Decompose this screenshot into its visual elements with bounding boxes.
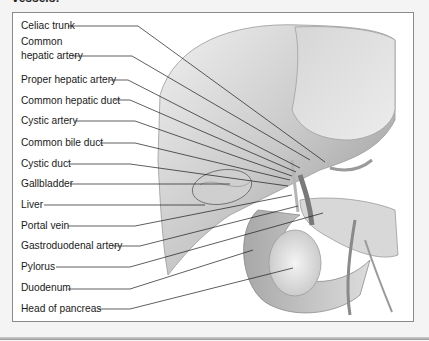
- label-common-hepatic-duct: Common hepatic duct: [21, 95, 120, 107]
- label-common-bile-duct: Common bile duct: [21, 137, 103, 149]
- bottom-rule: [0, 337, 429, 340]
- label-common-hepatic-artery-line1: Common: [21, 36, 62, 48]
- liver-right-lobe: [292, 27, 395, 140]
- label-cystic-duct: Cystic duct: [21, 158, 71, 170]
- pancreas-head-shape: [269, 230, 321, 296]
- label-celiac-trunk: Celiac trunk: [21, 20, 75, 32]
- label-duodenum: Duodenum: [21, 282, 71, 294]
- label-gastroduodenal-artery: Gastroduodenal artery: [21, 240, 122, 252]
- label-portal-vein: Portal vein: [21, 220, 69, 232]
- label-head-of-pancreas: Head of pancreas: [21, 303, 101, 315]
- label-common-hepatic-artery-line2: hepatic artery: [21, 50, 83, 62]
- label-gallbladder: Gallbladder: [21, 178, 73, 190]
- label-liver: Liver: [21, 199, 43, 211]
- label-cystic-artery: Cystic artery: [21, 115, 78, 127]
- label-proper-hepatic-artery: Proper hepatic artery: [21, 74, 116, 86]
- label-pylorus: Pylorus: [21, 261, 55, 273]
